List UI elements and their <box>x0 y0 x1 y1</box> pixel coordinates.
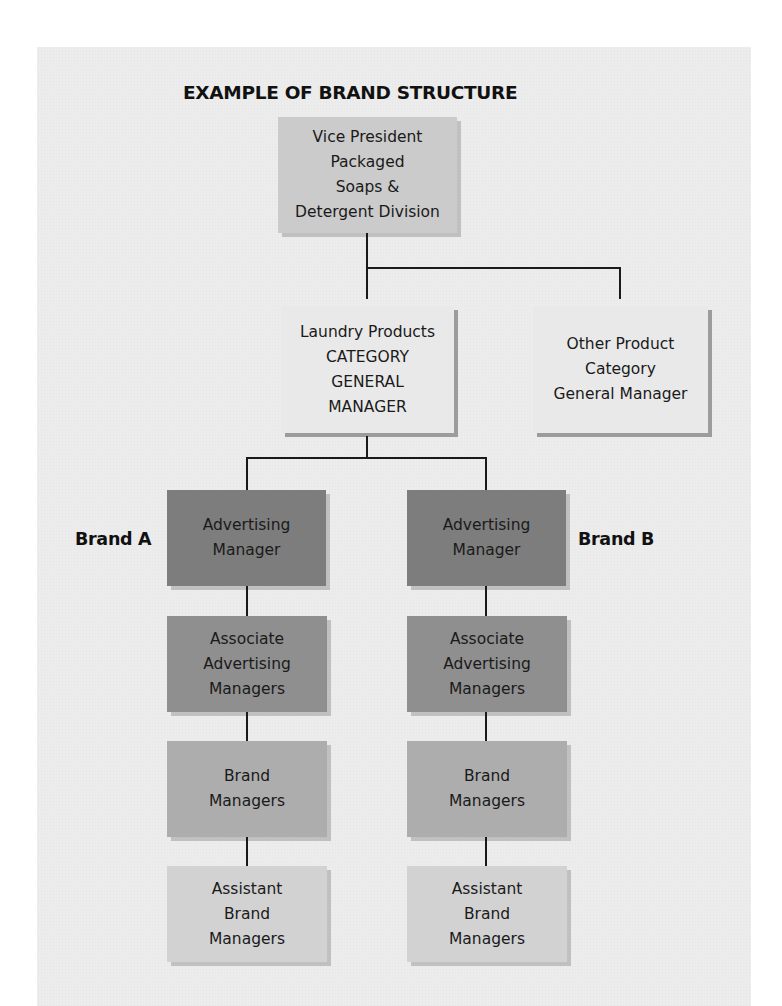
role-line: Managers <box>209 677 285 702</box>
connector-brands-horizontal <box>246 457 487 459</box>
vp-box: Vice President Packaged Soaps & Detergen… <box>278 117 457 233</box>
role-line: Managers <box>449 789 525 814</box>
connector-b-2 <box>485 712 487 741</box>
brand-a-label: Brand A <box>75 529 151 549</box>
brand-a-associate-box: Associate Advertising Managers <box>167 616 327 712</box>
category-line: General Manager <box>554 382 688 407</box>
role-line: Brand <box>464 764 510 789</box>
category-line: Category <box>585 357 656 382</box>
role-line: Managers <box>449 927 525 952</box>
role-line: Assistant <box>452 877 523 902</box>
category-line: Laundry Products <box>300 320 435 345</box>
connector-other-drop <box>619 267 621 299</box>
role-line: Brand <box>464 902 510 927</box>
role-line: Advertising <box>203 513 291 538</box>
connector-a-1 <box>246 586 248 616</box>
connector-laundry-stem <box>366 436 368 459</box>
laundry-category-box: Laundry Products CATEGORY GENERAL MANAGE… <box>281 306 454 433</box>
role-line: Advertising <box>203 652 291 677</box>
category-line: MANAGER <box>328 395 406 420</box>
vp-line: Vice President <box>313 125 423 150</box>
connector-a-2 <box>246 712 248 741</box>
connector-laundry-drop <box>366 267 368 299</box>
role-line: Managers <box>209 927 285 952</box>
vp-line: Packaged <box>330 150 404 175</box>
role-line: Associate <box>210 627 284 652</box>
brand-b-associate-box: Associate Advertising Managers <box>407 616 567 712</box>
category-line: GENERAL <box>331 370 404 395</box>
category-line: Other Product <box>567 332 675 357</box>
role-line: Brand <box>224 764 270 789</box>
role-line: Managers <box>209 789 285 814</box>
category-line: CATEGORY <box>326 345 409 370</box>
role-line: Advertising <box>443 652 531 677</box>
other-category-box: Other Product Category General Manager <box>533 306 708 433</box>
role-line: Assistant <box>212 877 283 902</box>
role-line: Manager <box>453 538 521 563</box>
brand-a-advertising-manager-box: Advertising Manager <box>167 490 326 586</box>
diagram-title: EXAMPLE OF BRAND STRUCTURE <box>183 82 517 103</box>
connector-a-3 <box>246 837 248 866</box>
connector-b-1 <box>485 586 487 616</box>
role-line: Managers <box>449 677 525 702</box>
role-line: Manager <box>213 538 281 563</box>
brand-a-brand-managers-box: Brand Managers <box>167 741 327 837</box>
connector-brand-b-drop <box>485 457 487 491</box>
brand-b-advertising-manager-box: Advertising Manager <box>407 490 566 586</box>
brand-b-label: Brand B <box>578 529 654 549</box>
brand-a-assistant-box: Assistant Brand Managers <box>167 866 327 962</box>
brand-b-brand-managers-box: Brand Managers <box>407 741 567 837</box>
connector-vp-horizontal <box>366 267 621 269</box>
connector-vp-stem <box>366 233 368 268</box>
role-line: Brand <box>224 902 270 927</box>
role-line: Associate <box>450 627 524 652</box>
vp-line: Detergent Division <box>295 200 440 225</box>
brand-b-assistant-box: Assistant Brand Managers <box>407 866 567 962</box>
vp-line: Soaps & <box>336 175 400 200</box>
connector-b-3 <box>485 837 487 866</box>
role-line: Advertising <box>443 513 531 538</box>
connector-brand-a-drop <box>246 457 248 491</box>
